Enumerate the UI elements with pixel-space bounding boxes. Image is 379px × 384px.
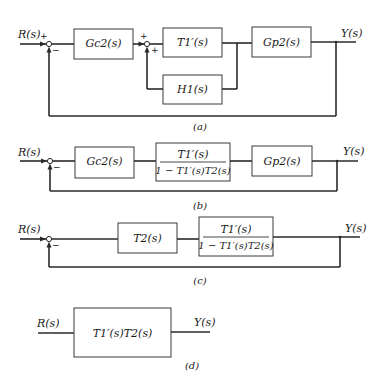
output-label-a: Y(s) xyxy=(341,27,363,40)
diagram-d: R(s) T1′(s)T2(s) Y(s) (d) xyxy=(36,308,216,371)
sum1-bottom-sign-b: − xyxy=(53,162,61,172)
arrowhead-icon xyxy=(40,237,46,242)
block-gc2-b-label: Gc2(s) xyxy=(86,155,122,168)
sum1-bottom-sign-a: − xyxy=(52,45,60,55)
block-t2-c-label: T2(s) xyxy=(133,232,162,245)
block-gc2-a-label: Gc2(s) xyxy=(85,37,121,50)
input-label-c: R(s) xyxy=(17,223,41,236)
block-gp2-a-label: Gp2(s) xyxy=(263,36,300,49)
caption-b: (b) xyxy=(193,200,207,211)
summing-junction-a2 xyxy=(144,41,149,46)
output-label-b: Y(s) xyxy=(343,145,365,158)
diagram-a: R(s) + − Gc2(s) + + T1′(s) H1(s) Gp2(s) … xyxy=(17,27,363,132)
block-fraction-b-denominator: 1 − T1′(s)T2(s) xyxy=(155,165,230,176)
arrowhead-icon xyxy=(40,42,46,47)
summing-junction-b1 xyxy=(47,158,52,163)
caption-a: (a) xyxy=(193,121,207,132)
sum2-bottom-sign-a: + xyxy=(151,45,159,55)
sum1-top-sign-a: + xyxy=(40,31,48,41)
block-diagram-canvas: R(s) + − Gc2(s) + + T1′(s) H1(s) Gp2(s) … xyxy=(0,0,379,384)
block-fraction-c-numerator: T1′(s) xyxy=(220,223,251,236)
arrowhead-icon xyxy=(47,242,52,248)
output-label-d: Y(s) xyxy=(194,316,216,329)
caption-c: (c) xyxy=(193,275,207,286)
block-overall-d-label: T1′(s)T2(s) xyxy=(93,327,153,340)
sum2-top-sign-a: + xyxy=(140,31,148,41)
input-label-a: R(s) xyxy=(17,28,41,41)
block-gp2-b-label: Gp2(s) xyxy=(263,155,300,168)
arrowhead-icon xyxy=(47,47,52,53)
block-h1-a-label: H1(s) xyxy=(176,83,208,96)
summing-junction-c1 xyxy=(46,236,51,241)
sum1-bottom-sign-c: − xyxy=(52,240,60,250)
block-t1prime-a-label: T1′(s) xyxy=(177,36,208,49)
diagram-c: R(s) − T2(s) T1′(s) 1 − T1′(s)T2(s) Y(s)… xyxy=(17,217,367,286)
output-label-c: Y(s) xyxy=(345,222,367,235)
diagram-b: R(s) − Gc2(s) T1′(s) 1 − T1′(s)T2(s) Gp2… xyxy=(17,143,365,211)
arrowhead-icon xyxy=(41,159,47,164)
arrowhead-icon xyxy=(48,164,53,170)
input-label-d: R(s) xyxy=(36,317,60,330)
block-fraction-c-denominator: 1 − T1′(s)T2(s) xyxy=(198,240,273,251)
block-fraction-b-numerator: T1′(s) xyxy=(177,148,208,161)
arrowhead-icon xyxy=(139,42,145,47)
summing-junction-a1 xyxy=(46,41,51,46)
caption-d: (d) xyxy=(185,360,199,371)
arrowhead-icon xyxy=(145,47,150,53)
input-label-b: R(s) xyxy=(17,146,41,159)
